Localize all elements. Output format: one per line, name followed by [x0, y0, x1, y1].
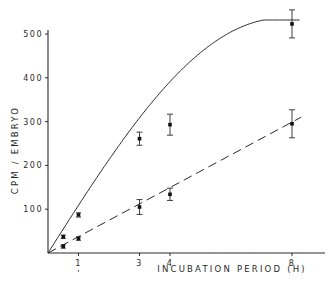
dashed-fit-line	[48, 117, 301, 253]
chart: 100200300400500 1348 INCUBATION PERIOD (…	[0, 0, 334, 290]
point-marker	[77, 213, 81, 217]
upper-data-point	[167, 114, 173, 135]
upper-data-point	[76, 213, 81, 217]
y-tick-label: 100	[23, 205, 43, 214]
x-axis-title: INCUBATION PERIOD (H)	[157, 264, 307, 274]
lower-data-point	[167, 188, 173, 200]
x-tick-label: 3	[136, 259, 143, 268]
y-tick-label: 200	[23, 161, 43, 170]
y-tick-label: 400	[23, 74, 43, 83]
y-tick-label: 500	[23, 30, 43, 39]
y-axis-title: CPM / EMBRYO	[10, 106, 20, 194]
upper-data-point	[289, 10, 295, 38]
point-marker	[138, 205, 142, 209]
point-marker	[290, 122, 294, 126]
point-marker	[61, 235, 65, 239]
y-axis: 100200300400500	[23, 30, 48, 253]
x-tick-label: 1	[75, 259, 82, 268]
point-marker	[77, 237, 81, 241]
point-marker	[290, 22, 294, 26]
upper-data-point	[61, 235, 66, 239]
lower-data-point	[61, 245, 66, 249]
point-marker	[168, 193, 172, 197]
solid-fit-curve	[48, 20, 300, 253]
point-marker	[168, 123, 172, 127]
point-marker	[138, 137, 142, 141]
upper-data-point	[137, 132, 143, 145]
fit-curves	[48, 20, 301, 253]
lower-data-point	[137, 200, 143, 215]
lower-data-point	[76, 237, 81, 241]
point-marker	[61, 245, 65, 249]
y-tick-label: 300	[23, 118, 43, 127]
data-points	[61, 10, 295, 248]
